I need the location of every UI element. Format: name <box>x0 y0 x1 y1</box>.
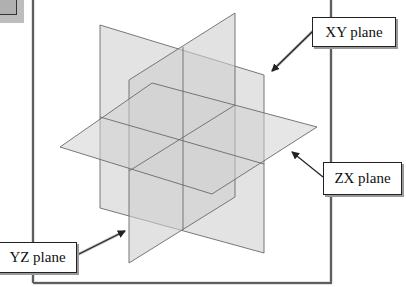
zx-arrow <box>292 152 323 177</box>
yz-plane-label: YZ plane <box>0 242 77 273</box>
xy-plane-label: XY plane <box>312 17 396 47</box>
zx-plane <box>60 83 317 194</box>
zx-plane-label: ZX plane <box>323 162 402 195</box>
planes-diagram: XY plane ZX plane YZ plane <box>0 0 406 287</box>
